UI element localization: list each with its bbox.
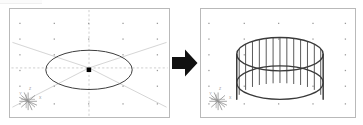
axis-label-x: X [39,96,42,100]
view-axis-star-icon [19,92,37,110]
center-axes [11,10,167,116]
arrow-shape [172,50,198,77]
axis-label-x: X [229,96,232,100]
axis-label-z: Z [219,87,222,91]
panel-result-after: X Y Z [200,8,356,118]
extruded-cylinder [237,37,323,99]
view-axis-star-icon [209,92,227,110]
sketch-viewport: X Y Z [10,9,169,117]
top-edge-strip [0,0,42,4]
axis-label-z: Z [29,87,32,91]
transform-arrow [172,48,198,78]
panel-sketch-before: X Y Z [9,8,170,118]
construction-lines [12,42,166,107]
result-viewport: X Y Z [201,9,355,117]
grid-dots [208,23,346,105]
circle-center-point [87,68,92,73]
figure-canvas: X Y Z [0,0,363,125]
